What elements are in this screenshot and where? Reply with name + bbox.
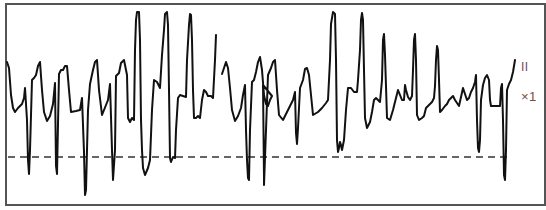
ecg-trace-segment-2	[222, 12, 515, 185]
ecg-trace-group	[7, 12, 515, 195]
ecg-strip	[0, 0, 546, 210]
ecg-trace-segment-1	[7, 12, 216, 195]
gain-label: ×1	[521, 89, 537, 104]
lead-label: II	[521, 60, 529, 74]
